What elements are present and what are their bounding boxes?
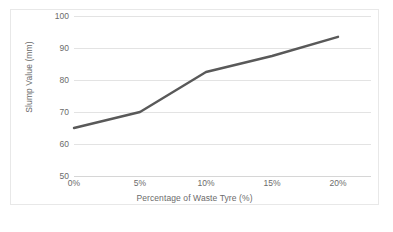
y-tick-label-70: 70 xyxy=(60,107,69,117)
x-tick-label-0pct: 0% xyxy=(68,178,80,188)
plot-area: 5060708090100 xyxy=(74,16,371,176)
chart-figure: Slump Value (mm) 5060708090100 0%5%10%15… xyxy=(10,9,379,205)
x-axis-title: Percentage of Waste Tyre (%) xyxy=(11,193,378,203)
x-tick-label-10pct: 10% xyxy=(197,178,214,188)
series-polyline xyxy=(74,37,338,128)
y-tick-label-60: 60 xyxy=(60,139,69,149)
x-tick-label-15pct: 15% xyxy=(263,178,280,188)
y-tick-label-80: 80 xyxy=(60,75,69,85)
x-tick-label-20pct: 20% xyxy=(329,178,346,188)
y-tick-label-100: 100 xyxy=(55,11,69,21)
y-axis-title: Slump Value (mm) xyxy=(24,12,34,142)
gridline-50: 50 xyxy=(74,176,371,177)
x-axis-tick-labels: 0%5%10%15%20% xyxy=(74,178,371,190)
y-tick-label-90: 90 xyxy=(60,43,69,53)
x-tick-label-5pct: 5% xyxy=(134,178,146,188)
line-series-slump-value xyxy=(74,16,371,176)
